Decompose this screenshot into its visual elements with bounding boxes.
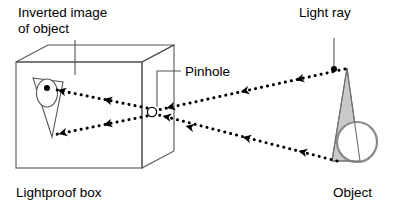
ray-pinhole-to-image-bottom xyxy=(53,116,147,135)
label-object: Object xyxy=(333,185,372,200)
box-top-face xyxy=(16,45,174,62)
label-inverted-image-line2: of object xyxy=(18,21,69,36)
leader-dot-light-ray xyxy=(331,66,337,72)
object-shape xyxy=(332,68,377,162)
ray-arrowheads xyxy=(58,79,303,152)
diagram-canvas: Inverted image of object Pinhole Light r… xyxy=(0,0,398,206)
arrowhead xyxy=(167,107,171,108)
label-inverted-image-line1: Inverted image xyxy=(18,5,107,20)
light-rays xyxy=(52,69,345,161)
pinhole-camera-figure: Inverted image of object Pinhole Light r… xyxy=(0,0,398,206)
leader-line-pinhole xyxy=(157,71,181,107)
pinhole-aperture xyxy=(147,107,156,116)
ray-object-bottom-to-pinhole xyxy=(159,115,337,161)
label-lightproof-box: Lightproof box xyxy=(16,185,102,200)
label-light-ray: Light ray xyxy=(299,5,351,20)
label-pinhole: Pinhole xyxy=(185,64,230,79)
inverted-image-sphere xyxy=(37,79,58,107)
arrowhead xyxy=(186,126,190,127)
ray-pinhole-to-image-top xyxy=(52,89,147,108)
leader-dot-inverted-image xyxy=(44,85,50,91)
lightproof-box xyxy=(16,45,174,168)
